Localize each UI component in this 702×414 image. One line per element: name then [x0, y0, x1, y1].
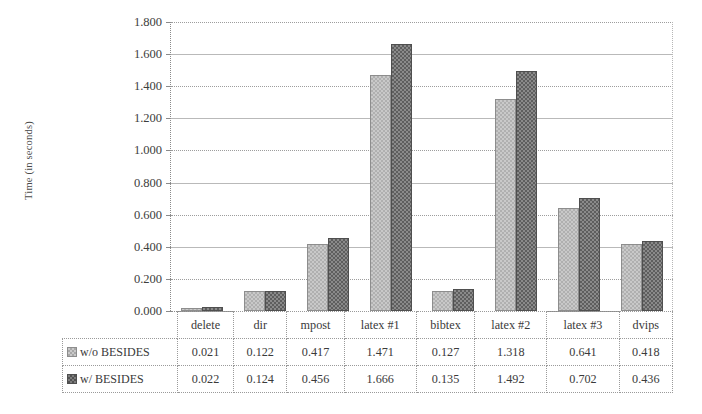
- bar: [642, 241, 663, 311]
- data-cell: 1.471: [344, 339, 416, 366]
- legend-swatch-icon: [67, 374, 77, 384]
- data-cell: 0.135: [416, 366, 474, 393]
- bar-group: [610, 22, 673, 311]
- y-axis-tick-label: 0.200: [134, 271, 162, 286]
- y-axis-tick-label: 0.800: [134, 175, 162, 190]
- data-cell: 0.702: [547, 366, 619, 393]
- legend-label: w/ BESIDES: [80, 372, 144, 386]
- category-header-cell: mpost: [287, 312, 344, 339]
- chart-figure: Time (in seconds) 0.0000.2000.4000.6000.…: [0, 0, 702, 414]
- data-table: deletedirmpostlatex #1bibtexlatex #2late…: [62, 311, 673, 393]
- data-cell: 0.418: [619, 339, 672, 366]
- bar: [558, 208, 579, 311]
- data-cell: 0.436: [619, 366, 672, 393]
- bar: [495, 99, 516, 311]
- bar-group: [485, 22, 548, 311]
- legend-entry: w/o BESIDES: [63, 339, 178, 366]
- bar: [621, 244, 642, 311]
- category-header-cell: latex #3: [547, 312, 619, 339]
- plot-wrapper: 0.0000.2000.4000.6000.8001.0001.2001.400…: [170, 22, 673, 311]
- y-axis-tick-label: 1.200: [134, 111, 162, 126]
- bar-group: [234, 22, 297, 311]
- data-cell: 0.022: [178, 366, 234, 393]
- bar: [307, 244, 328, 311]
- plot-area: 0.0000.2000.4000.6000.8001.0001.2001.400…: [170, 22, 673, 311]
- y-axis-tick-label: 1.400: [134, 79, 162, 94]
- category-header-cell: bibtex: [416, 312, 474, 339]
- category-header-cell: latex #1: [344, 312, 416, 339]
- legend-swatch-icon: [67, 347, 77, 357]
- category-header-cell: delete: [178, 312, 234, 339]
- y-axis-tick-label: 0.400: [134, 239, 162, 254]
- y-axis-tick-label: 1.000: [134, 143, 162, 158]
- bar-group: [171, 22, 234, 311]
- y-axis-tick-label: 1.600: [134, 47, 162, 62]
- data-cell: 0.122: [234, 339, 287, 366]
- y-axis-title: Time (in seconds): [23, 61, 34, 261]
- table-row: w/o BESIDES0.0210.1220.4171.4710.1271.31…: [63, 339, 673, 366]
- bar: [453, 289, 474, 311]
- data-cell: 1.318: [475, 339, 547, 366]
- data-cell: 1.666: [344, 366, 416, 393]
- bar: [579, 198, 600, 311]
- table-corner-cell: [63, 312, 178, 339]
- bar: [328, 238, 349, 311]
- table-row: w/ BESIDES0.0220.1240.4561.6660.1351.492…: [63, 366, 673, 393]
- data-cell: 1.492: [475, 366, 547, 393]
- category-header-cell: dir: [234, 312, 287, 339]
- y-axis-tick-label: 0.600: [134, 207, 162, 222]
- bar-group: [359, 22, 422, 311]
- legend-label: w/o BESIDES: [80, 345, 150, 359]
- bar: [265, 291, 286, 311]
- data-cell: 0.127: [416, 339, 474, 366]
- data-cell: 0.417: [287, 339, 344, 366]
- bar: [391, 44, 412, 311]
- y-axis-tick-label: 1.800: [134, 15, 162, 30]
- data-cell: 0.641: [547, 339, 619, 366]
- bar-group: [422, 22, 485, 311]
- table-row: deletedirmpostlatex #1bibtexlatex #2late…: [63, 312, 673, 339]
- bar-group: [297, 22, 360, 311]
- bar: [370, 75, 391, 311]
- legend-entry: w/ BESIDES: [63, 366, 178, 393]
- data-cell: 0.456: [287, 366, 344, 393]
- category-header-cell: dvips: [619, 312, 672, 339]
- category-header-cell: latex #2: [475, 312, 547, 339]
- bar-group: [548, 22, 611, 311]
- bar: [244, 291, 265, 311]
- bar-series-container: [171, 22, 673, 311]
- data-cell: 0.021: [178, 339, 234, 366]
- bar: [516, 71, 537, 311]
- data-cell: 0.124: [234, 366, 287, 393]
- bar: [432, 291, 453, 311]
